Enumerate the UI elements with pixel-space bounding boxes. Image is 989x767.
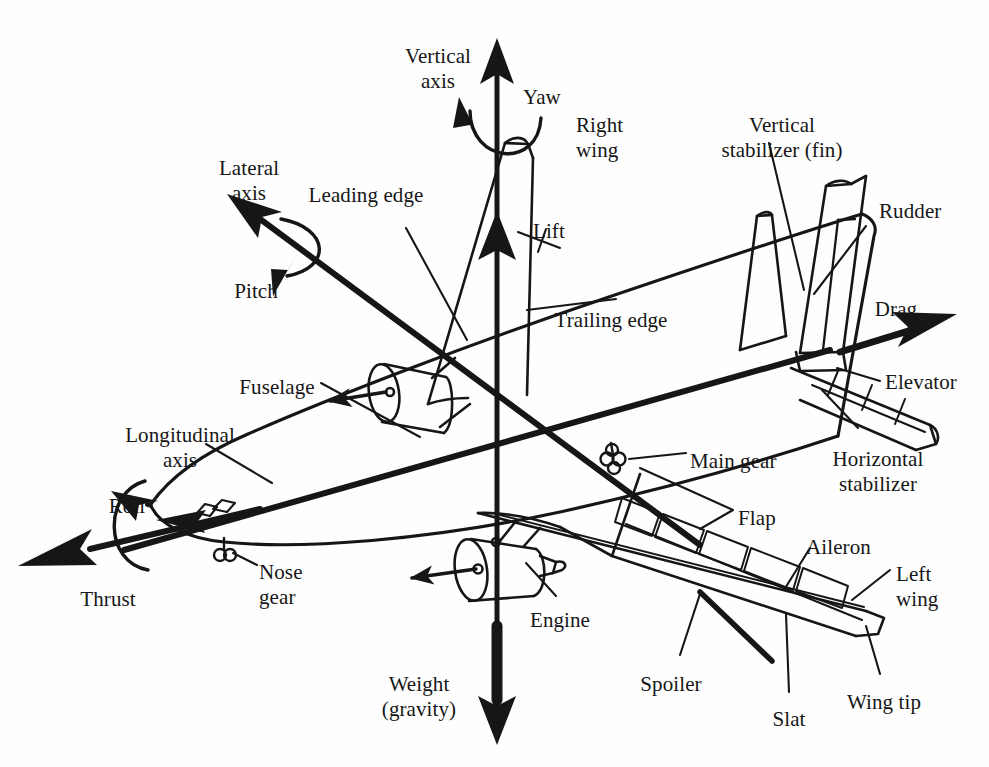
label-nose-gear: Nose gear — [259, 560, 303, 610]
thrust-arrowhead-outer — [18, 529, 97, 566]
label-left-wing: Left wing — [896, 562, 938, 612]
label-vertical-stabilizer: Vertical stabilizer (fin) — [721, 113, 842, 163]
leader-rudder — [814, 226, 866, 294]
label-lift: Lift — [533, 219, 565, 244]
engine-left-thrust-arrow — [412, 569, 476, 578]
figure-canvas: Vertical axis Yaw Right wing Vertical st… — [0, 0, 989, 767]
label-right-wing: Right wing — [576, 113, 623, 163]
rudder — [823, 219, 855, 350]
vertical-stabilizer-far-fin — [740, 212, 786, 350]
leader-elevator — [837, 368, 880, 381]
label-main-gear: Main gear — [690, 449, 777, 474]
label-longitudinal-axis: Longitudinal axis — [125, 423, 235, 473]
label-leading-edge: Leading edge — [309, 183, 424, 208]
label-elevator: Elevator — [885, 370, 957, 395]
leader-spoiler — [680, 594, 700, 655]
yaw-arrowhead — [453, 97, 480, 139]
right-wing — [428, 138, 533, 404]
label-vertical-axis: Vertical axis — [405, 44, 471, 94]
label-spoiler: Spoiler — [640, 672, 701, 697]
leader-nose-gear — [233, 553, 257, 565]
label-trailing-edge: Trailing edge — [554, 308, 667, 333]
label-weight-gravity: Weight (gravity) — [382, 672, 456, 722]
label-roll: Roll — [109, 494, 146, 519]
engine-right — [365, 358, 470, 433]
label-flap: Flap — [738, 506, 776, 531]
label-thrust: Thrust — [80, 587, 135, 612]
leader-main-gear — [629, 453, 686, 459]
label-wing-tip: Wing tip — [847, 690, 921, 715]
label-horizontal-stabilizer: Horizontal stabilizer — [833, 447, 924, 497]
spoiler-pointer — [700, 592, 772, 661]
label-drag: Drag — [875, 297, 917, 322]
label-pitch: Pitch — [234, 279, 278, 304]
label-engine: Engine — [530, 608, 590, 633]
label-yaw: Yaw — [523, 85, 561, 110]
leader-vertical-stabilizer — [769, 143, 804, 290]
label-aileron: Aileron — [806, 535, 871, 560]
leader-fuselage — [321, 383, 420, 437]
label-lateral-axis: Lateral axis — [219, 156, 279, 206]
leader-slat — [786, 614, 789, 692]
engine-left — [451, 521, 565, 603]
leader-flap — [640, 468, 733, 529]
label-rudder: Rudder — [879, 199, 941, 224]
label-fuselage: Fuselage — [239, 375, 314, 400]
main-gear — [601, 443, 626, 474]
leader-left-wing — [852, 570, 890, 600]
label-slat: Slat — [772, 707, 805, 732]
leader-leading-edge — [406, 228, 467, 340]
